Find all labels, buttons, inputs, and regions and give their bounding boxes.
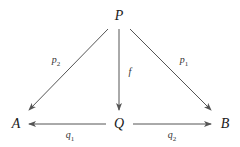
node-A: A [12, 117, 21, 131]
label-q1: q1 [66, 130, 75, 143]
label-p2: p2 [52, 55, 61, 68]
arrow-p2 [29, 29, 108, 110]
node-B: B [221, 117, 230, 131]
node-Q: Q [114, 117, 124, 131]
label-p1: p1 [180, 55, 189, 68]
node-P: P [115, 9, 124, 23]
label-q2: q2 [168, 130, 177, 143]
arrow-p1 [130, 29, 211, 110]
label-f: f [129, 67, 132, 77]
